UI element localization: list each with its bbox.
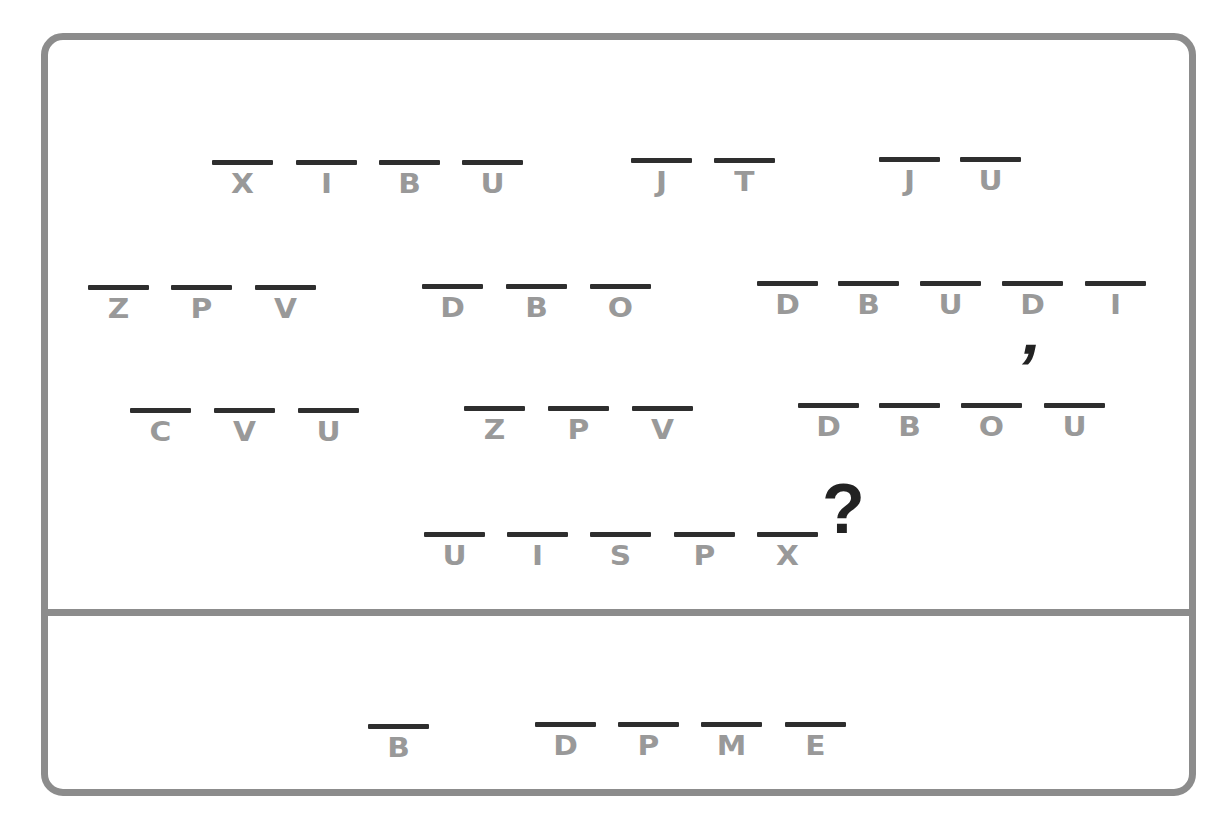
blank-line: [1044, 403, 1105, 408]
answer-letter: M: [698, 731, 765, 761]
blank-line: [674, 532, 735, 537]
answer-letter: D: [532, 731, 599, 761]
blank-line: [1085, 281, 1146, 286]
cipher-letter-slot: T: [714, 158, 775, 208]
cipher-letter-slot: U: [462, 160, 523, 210]
cipher-letter: U: [459, 169, 526, 199]
cipher-letter-slot: B: [838, 281, 899, 331]
blank-line: [535, 722, 596, 727]
cipher-letter-slot: Z: [88, 285, 149, 335]
blank-line: [879, 157, 940, 162]
cipher-letter-slot: V: [255, 285, 316, 335]
cipher-letter-slot: O: [961, 403, 1022, 453]
blank-line: [464, 406, 525, 411]
cipher-letter: B: [876, 412, 943, 442]
cipher-letter: V: [252, 294, 319, 324]
cipher-letter: Z: [85, 294, 152, 324]
answer-letter: B: [365, 733, 432, 763]
cipher-letter-slot: D: [798, 403, 859, 453]
blank-line: [506, 284, 567, 289]
blank-line: [920, 281, 981, 286]
cipher-letter: I: [1082, 290, 1149, 320]
blank-line: [88, 285, 149, 290]
cipher-letter: U: [1041, 412, 1108, 442]
cipher-letter-slot: P: [171, 285, 232, 335]
blank-line: [701, 722, 762, 727]
answer-letter-slot: B: [368, 724, 429, 774]
cipher-letter-slot: D: [1002, 281, 1063, 331]
cipher-letter-slot: D: [422, 284, 483, 334]
blank-line: [879, 403, 940, 408]
answer-letter-slot: E: [785, 722, 846, 772]
cipher-letter-slot: P: [674, 532, 735, 582]
cipher-letter: U: [957, 166, 1024, 196]
blank-line: [255, 285, 316, 290]
answer-letter-slot: D: [535, 722, 596, 772]
cipher-letter-slot: J: [631, 158, 692, 208]
blank-line: [422, 284, 483, 289]
blank-line: [590, 284, 651, 289]
cipher-letter-slot: U: [1044, 403, 1105, 453]
cipher-letter: D: [754, 290, 821, 320]
cipher-letter-slot: B: [506, 284, 567, 334]
cipher-letter: D: [795, 412, 862, 442]
cipher-letter-slot: I: [1085, 281, 1146, 331]
blank-line: [960, 157, 1021, 162]
cipher-letter-slot: I: [296, 160, 357, 210]
cipher-letter: Z: [461, 415, 528, 445]
cipher-letter: J: [876, 166, 943, 196]
blank-line: [424, 532, 485, 537]
cipher-letter-slot: O: [590, 284, 651, 334]
cipher-letter-slot: P: [548, 406, 609, 456]
cipher-letter-slot: J: [879, 157, 940, 207]
cipher-letter-slot: S: [590, 532, 651, 582]
blank-line: [462, 160, 523, 165]
cipher-letter: J: [628, 167, 695, 197]
cipher-letter-slot: U: [424, 532, 485, 582]
cipher-letter-slot: C: [130, 408, 191, 458]
cipher-letter: T: [711, 167, 778, 197]
blank-line: [296, 160, 357, 165]
blank-line: [618, 722, 679, 727]
cipher-letter: P: [168, 294, 235, 324]
cipher-letter: S: [587, 541, 654, 571]
cipher-letter-slot: X: [212, 160, 273, 210]
blank-line: [171, 285, 232, 290]
blank-line: [632, 406, 693, 411]
cipher-letter: V: [211, 417, 278, 447]
blank-line: [785, 722, 846, 727]
blank-line: [1002, 281, 1063, 286]
cipher-letter: D: [419, 293, 486, 323]
blank-line: [798, 403, 859, 408]
cipher-letter-slot: D: [757, 281, 818, 331]
question-mark: ?: [822, 474, 865, 544]
cipher-letter: B: [503, 293, 570, 323]
blank-line: [714, 158, 775, 163]
cipher-letter: I: [293, 169, 360, 199]
cipher-letter: U: [295, 417, 362, 447]
cipher-letter: O: [958, 412, 1025, 442]
cipher-letter: C: [127, 417, 194, 447]
answer-divider: [41, 609, 1196, 616]
cipher-letter-slot: U: [960, 157, 1021, 207]
blank-line: [631, 158, 692, 163]
blank-line: [214, 408, 275, 413]
cipher-letter: O: [587, 293, 654, 323]
blank-line: [130, 408, 191, 413]
cipher-letter: X: [754, 541, 821, 571]
blank-line: [212, 160, 273, 165]
cipher-letter: V: [629, 415, 696, 445]
cipher-letter-slot: V: [214, 408, 275, 458]
blank-line: [757, 281, 818, 286]
cipher-letter: D: [999, 290, 1066, 320]
answer-letter: P: [615, 731, 682, 761]
blank-line: [838, 281, 899, 286]
cipher-letter-slot: B: [379, 160, 440, 210]
cipher-letter: B: [835, 290, 902, 320]
cipher-letter-slot: X: [757, 532, 818, 582]
blank-line: [757, 532, 818, 537]
answer-letter: E: [782, 731, 849, 761]
cipher-letter-slot: Z: [464, 406, 525, 456]
answer-letter-slot: M: [701, 722, 762, 772]
cipher-letter-slot: I: [507, 532, 568, 582]
